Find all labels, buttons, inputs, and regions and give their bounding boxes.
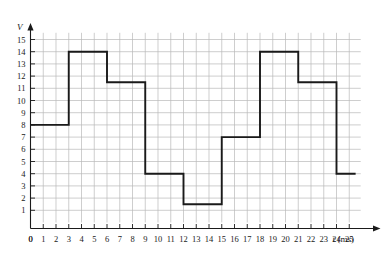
x-tick-label: 21 [294, 234, 303, 244]
y-tick-label: 13 [17, 59, 26, 69]
waveform-chart: 0123456789101112131415161718192021222324… [0, 0, 391, 258]
x-tick-label: 5 [92, 234, 96, 244]
y-tick-label: 12 [17, 71, 26, 81]
x-tick-label: 16 [230, 234, 239, 244]
x-tick-label: 22 [307, 234, 316, 244]
y-tick-label: 15 [17, 35, 26, 45]
x-tick-label: 23 [320, 234, 329, 244]
x-tick-label: 7 [118, 234, 122, 244]
x-tick-label: 12 [179, 234, 188, 244]
x-tick-label: 15 [218, 234, 227, 244]
chart-background [0, 0, 391, 258]
y-tick-label: 9 [21, 108, 25, 118]
y-tick-label: 2 [21, 193, 25, 203]
x-tick-label: 19 [269, 234, 278, 244]
x-tick-label: 17 [243, 234, 252, 244]
x-tick-label: 10 [154, 234, 163, 244]
x-tick-label: 3 [67, 234, 71, 244]
x-tick-label: 9 [143, 234, 147, 244]
x-tick-label: 14 [205, 234, 214, 244]
x-tick-label: 11 [167, 234, 175, 244]
y-tick-label: 11 [17, 83, 25, 93]
x-tick-label: 8 [130, 234, 134, 244]
x-tick-label: 2 [54, 234, 58, 244]
x-tick-label: 6 [105, 234, 109, 244]
x-tick-label: 20 [281, 234, 290, 244]
x-tick-label: 1 [41, 234, 45, 244]
x-tick-label: 18 [256, 234, 265, 244]
y-tick-label: 5 [21, 157, 25, 167]
y-tick-label: 8 [21, 120, 25, 130]
y-tick-label: 3 [21, 181, 25, 191]
origin-label: 0 [28, 234, 32, 244]
y-tick-label: 7 [21, 132, 25, 142]
chart-canvas: 0123456789101112131415161718192021222324… [0, 0, 391, 258]
y-tick-label: 1 [21, 205, 25, 215]
y-tick-label: 10 [17, 96, 26, 106]
x-tick-label: 13 [192, 234, 201, 244]
y-tick-label: 14 [17, 47, 26, 57]
y-tick-label: 6 [21, 144, 25, 154]
